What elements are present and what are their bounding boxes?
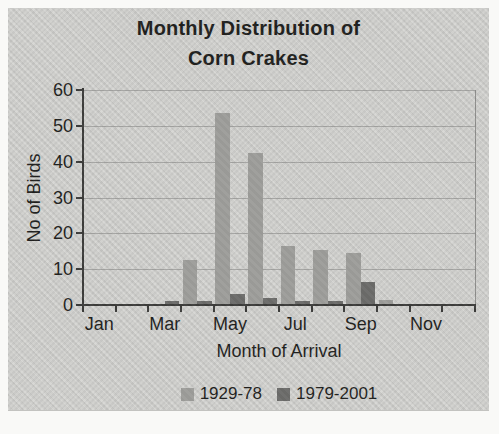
x-tick-0 [82, 306, 84, 312]
x-tick-3 [180, 306, 182, 312]
bar-1929-78-sep [346, 253, 361, 305]
x-tick-9 [376, 306, 378, 312]
bar-1929-78-aug [313, 250, 328, 306]
legend-swatch-1979-2001 [277, 388, 290, 401]
gridline-10 [84, 269, 475, 270]
y-tick-label-50: 50 [30, 116, 73, 136]
legend-item-1929-78: 1929-78 [181, 385, 262, 403]
gridline-30 [84, 198, 475, 199]
x-tick-label-jul: Jul [263, 314, 327, 334]
x-tick-label-mar: Mar [133, 314, 197, 334]
gridline-50 [84, 126, 475, 127]
y-tick-30 [76, 197, 82, 199]
y-tick-label-60: 60 [30, 80, 73, 100]
y-tick-20 [76, 232, 82, 234]
legend-label-1929-78: 1929-78 [200, 385, 262, 403]
x-tick-8 [343, 306, 345, 312]
plot-right-border [475, 90, 476, 305]
gridline-20 [84, 233, 475, 234]
x-tick-4 [213, 306, 215, 312]
bar-1929-78-may [215, 113, 230, 305]
legend-swatch-1929-78 [181, 388, 194, 401]
x-axis-title: Month of Arrival [83, 341, 475, 362]
y-tick-label-10: 10 [30, 259, 73, 279]
legend-item-1979-2001: 1979-2001 [277, 385, 377, 403]
legend: 1929-781979-2001 [83, 385, 475, 403]
y-tick-40 [76, 161, 82, 163]
y-tick-label-40: 40 [30, 152, 73, 172]
bar-1929-78-jul [281, 246, 296, 305]
plot-area: 0102030405060JanMarMayJulSepNov [0, 0, 499, 434]
y-tick-label-30: 30 [30, 188, 73, 208]
x-tick-2 [147, 306, 149, 312]
y-tick-60 [76, 89, 82, 91]
y-tick-50 [76, 125, 82, 127]
x-tick-label-nov: Nov [394, 314, 458, 334]
chart-stage: Monthly Distribution of Corn Crakes No o… [0, 0, 499, 434]
x-tick-10 [409, 306, 411, 312]
y-tick-10 [76, 268, 82, 270]
x-tick-6 [278, 306, 280, 312]
x-tick-label-may: May [198, 314, 262, 334]
x-tick-label-sep: Sep [329, 314, 393, 334]
y-axis-line [82, 88, 84, 306]
x-tick-11 [441, 306, 443, 312]
y-tick-label-20: 20 [30, 223, 73, 243]
bar-1929-78-jun [248, 153, 263, 305]
bar-1979-2001-sep [361, 282, 376, 305]
x-tick-label-jan: Jan [67, 314, 131, 334]
y-tick-label-0: 0 [30, 295, 73, 315]
gridline-40 [84, 162, 475, 163]
legend-label-1979-2001: 1979-2001 [296, 385, 377, 403]
x-tick-12 [474, 306, 476, 312]
bar-1929-78-apr [183, 260, 198, 305]
gridline-60 [84, 90, 475, 91]
x-tick-5 [245, 306, 247, 312]
x-tick-7 [311, 306, 313, 312]
x-tick-1 [115, 306, 117, 312]
